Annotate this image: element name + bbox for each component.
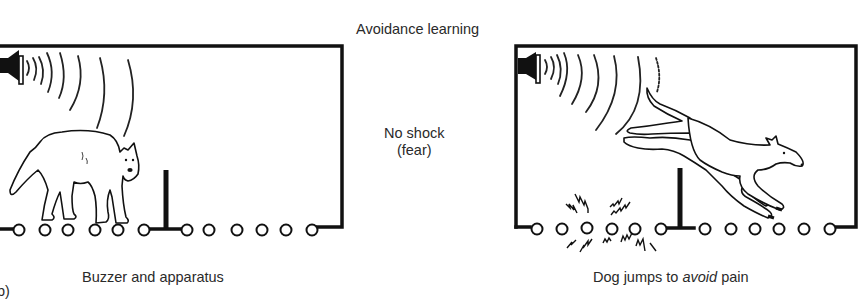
jumping-dog-illustration (624, 88, 803, 218)
buzzer-speaker-icon (518, 52, 540, 83)
standing-dog-illustration (10, 131, 139, 223)
barrier (662, 168, 694, 229)
buzzer-speaker-icon (0, 50, 23, 84)
right-panel (516, 46, 856, 252)
sound-waves-icon (27, 53, 133, 136)
left-panel (0, 46, 342, 236)
barrier (150, 170, 180, 229)
sound-waves-icon (545, 53, 659, 134)
